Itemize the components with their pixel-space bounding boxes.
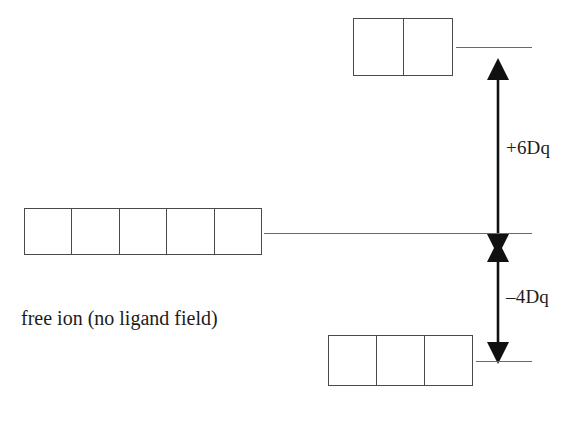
- upper-energy-label: +6Dq: [506, 138, 550, 157]
- crystal-field-splitting-diagram: +6Dq –4Dq free ion (no ligand field): [0, 0, 576, 425]
- orbital-cell: [120, 209, 167, 254]
- lower-orbital-set: [328, 335, 473, 386]
- orbital-cell: [215, 209, 261, 254]
- lower-energy-label: –4Dq: [506, 287, 549, 306]
- orbital-cell: [377, 336, 425, 385]
- orbital-cell: [354, 19, 404, 75]
- orbital-cell: [329, 336, 377, 385]
- orbital-cell: [425, 336, 472, 385]
- free-ion-caption: free ion (no ligand field): [21, 308, 218, 328]
- upper-orbital-set: [353, 18, 453, 76]
- orbital-cell: [167, 209, 214, 254]
- barycenter-level-line: [264, 233, 532, 234]
- orbital-cell: [25, 209, 72, 254]
- upper-level-line: [456, 47, 532, 48]
- orbital-cell: [72, 209, 119, 254]
- free-ion-orbital-set: [24, 208, 262, 255]
- lower-level-line: [476, 361, 532, 362]
- orbital-cell: [404, 19, 453, 75]
